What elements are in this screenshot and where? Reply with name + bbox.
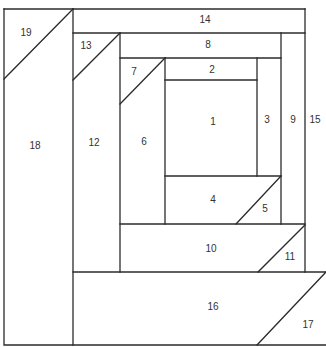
piece-label-1: 1 <box>210 116 216 127</box>
seam-lines <box>4 9 326 345</box>
piece-label-4: 4 <box>210 194 216 205</box>
piece-label-2: 2 <box>209 64 215 75</box>
piece-label-18: 18 <box>29 140 41 151</box>
piece-label-12: 12 <box>88 137 100 148</box>
piece-label-7: 7 <box>131 66 137 77</box>
piece-label-5: 5 <box>262 203 268 214</box>
piece-label-11: 11 <box>285 251 296 262</box>
piece-label-8: 8 <box>205 39 211 50</box>
piece-label-9: 9 <box>290 114 296 125</box>
piece-label-16: 16 <box>207 301 219 312</box>
piece-label-13: 13 <box>80 40 92 51</box>
piece-label-19: 19 <box>20 27 32 38</box>
piece-label-3: 3 <box>264 114 270 125</box>
piece-label-14: 14 <box>199 14 211 25</box>
piecing-diagram: 1 2 3 4 5 6 7 8 9 10 11 12 13 14 15 16 1… <box>0 0 326 347</box>
piece-label-17: 17 <box>302 319 314 330</box>
piece-label-6: 6 <box>141 136 147 147</box>
piece-label-15: 15 <box>309 114 321 125</box>
piece-label-10: 10 <box>205 243 217 254</box>
piece-labels: 1 2 3 4 5 6 7 8 9 10 11 12 13 14 15 16 1… <box>20 14 321 330</box>
